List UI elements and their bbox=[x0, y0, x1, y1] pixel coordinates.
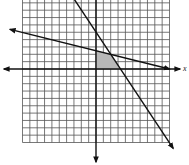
boundary-lines bbox=[10, 0, 173, 148]
axes bbox=[4, 0, 180, 162]
x-axis-label: x bbox=[183, 64, 187, 73]
coordinate-plane bbox=[0, 0, 189, 165]
